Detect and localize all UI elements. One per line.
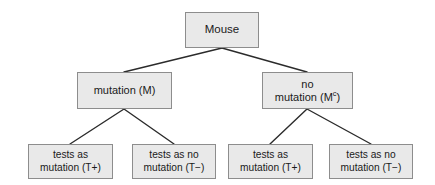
node-leaf-3-label: tests as mutation (T+) (237, 149, 304, 173)
node-no-mutation-line1: no (301, 78, 313, 90)
node-leaf-tests-as-mutation-right[interactable]: tests as mutation (T+) (228, 144, 313, 179)
node-no-mutation-line2-suffix: ) (337, 91, 341, 103)
tree-diagram: Mouse mutation (M) nomutation (Mc) tests… (0, 0, 435, 185)
node-mouse-label: Mouse (202, 23, 243, 37)
node-leaf-4-label: tests as no mutation (T−) (338, 149, 405, 173)
node-no-mutation-line2-prefix: mutation (M (275, 91, 333, 103)
node-no-mutation-label: nomutation (Mc) (272, 78, 343, 104)
edge-root-to-mutation (124, 48, 222, 72)
node-leaf-tests-as-mutation-left[interactable]: tests as mutation (T+) (28, 144, 113, 179)
edge-no-mutation-to-leaf-3 (270, 109, 307, 144)
node-leaf-tests-as-no-mutation-left[interactable]: tests as no mutation (T−) (132, 144, 216, 179)
node-leaf-2-label: tests as no mutation (T−) (141, 149, 208, 173)
node-mouse[interactable]: Mouse (185, 12, 259, 48)
node-no-mutation[interactable]: nomutation (Mc) (262, 72, 353, 109)
node-leaf-tests-as-no-mutation-right[interactable]: tests as no mutation (T−) (329, 144, 413, 179)
node-mutation-label: mutation (M) (91, 84, 159, 97)
node-leaf-1-label: tests as mutation (T+) (37, 149, 104, 173)
edge-no-mutation-to-leaf-4 (307, 109, 371, 144)
edge-mutation-to-leaf-1 (70, 109, 124, 144)
edge-mutation-to-leaf-2 (124, 109, 174, 144)
node-mutation[interactable]: mutation (M) (77, 72, 172, 109)
edge-root-to-no-mutation (222, 48, 307, 72)
